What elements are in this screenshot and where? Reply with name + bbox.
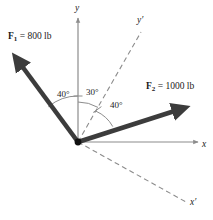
angle-arc-y-to-yprime — [78, 102, 98, 107]
x-prime-axis-line — [78, 142, 186, 202]
axis-label-x: x — [202, 140, 206, 150]
angle-label-yprime-to-f2: 40° — [110, 101, 123, 110]
origin-point — [75, 139, 82, 146]
force-value-f1: = 800 lb — [17, 31, 51, 41]
angle-label-y-to-yprime: 30° — [86, 88, 99, 97]
force-vector-diagram: F1 = 800 lb F2 = 1000 lb 40° 30° 40° y x… — [0, 0, 213, 220]
axis-label-y-prime: y′ — [137, 16, 143, 26]
force-vector-f2 — [78, 108, 184, 142]
force-vector-f1 — [16, 58, 78, 142]
axis-label-x-prime: x′ — [190, 198, 196, 208]
force-value-f2: = 1000 lb — [155, 81, 194, 91]
force-label-f1: F1 = 800 lb — [8, 32, 51, 43]
angle-label-f1-to-y: 40° — [57, 90, 70, 99]
angle-arc-yprime-to-f2 — [96, 111, 113, 126]
force-label-f2: F2 = 1000 lb — [146, 82, 194, 93]
axis-label-y: y — [75, 4, 79, 14]
